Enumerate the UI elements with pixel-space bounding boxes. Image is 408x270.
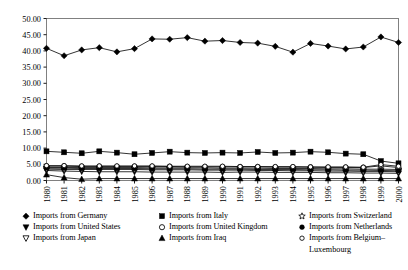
y-tick-label: 0.00 [26, 177, 41, 186]
line-chart: 0.005.0010.0015.0020.0025.0030.0035.0040… [0, 0, 408, 205]
legend-column-2: Imports from Italy Imports from United K… [156, 210, 298, 244]
x-tick-label: 1989 [201, 186, 210, 203]
legend-item-germany[interactable]: Imports from Germany [20, 210, 160, 221]
chart-page: 0.005.0010.0015.0020.0025.0030.0035.0040… [0, 0, 408, 270]
y-tick-label: 30.00 [22, 79, 41, 88]
legend-label: Imports from Netherlands [309, 221, 392, 232]
legend-item-belgium-luxembourg[interactable]: Imports from Belgium– [296, 232, 408, 243]
series-imports-from-germany [43, 34, 401, 59]
filled-down-triangle-icon [20, 221, 33, 232]
legend-item-netherlands[interactable]: Imports from Netherlands [296, 221, 408, 232]
legend-label: Imports from Switzerland [309, 210, 392, 221]
filled-up-triangle-icon [156, 232, 169, 243]
y-tick-label: 40.00 [22, 47, 41, 56]
legend-item-switzerland[interactable]: Imports from Switzerland [296, 210, 408, 221]
legend-item-italy[interactable]: Imports from Italy [156, 210, 298, 221]
legend-label: Imports from Italy [169, 210, 228, 221]
legend-item-united-states[interactable]: Imports from United States [20, 221, 160, 232]
legend-label: Imports from United Kingdom [169, 221, 268, 232]
legend-label: Imports from Iraq [169, 232, 226, 243]
filled-square-icon [156, 210, 169, 221]
x-tick-label: 2000 [395, 186, 404, 203]
y-tick-label: 10.00 [22, 144, 41, 153]
x-tick-label: 1981 [60, 186, 69, 203]
y-tick-label: 15.00 [22, 128, 41, 137]
x-tick-label: 1999 [377, 186, 386, 203]
legend-column-1: Imports from Germany Imports from United… [20, 210, 160, 244]
legend-column-3: Imports from Switzerland Imports from Ne… [296, 210, 408, 255]
open-down-triangle-icon [20, 232, 33, 243]
chart-legend: Imports from Germany Imports from United… [20, 210, 400, 266]
legend-label: Imports from Japan [33, 232, 96, 243]
y-tick-label: 45.00 [22, 31, 41, 40]
y-tick-label: 20.00 [22, 112, 41, 121]
legend-label: Imports from Germany [33, 210, 107, 221]
legend-item-iraq[interactable]: Imports from Iraq [156, 232, 298, 243]
x-tick-label: 1980 [43, 186, 52, 203]
x-tick-label: 1995 [307, 186, 316, 203]
x-tick-label: 1997 [342, 186, 351, 203]
x-tick-label: 1984 [113, 185, 122, 202]
x-tick-label: 1994 [289, 185, 298, 202]
y-tick-label: 5.00 [26, 160, 41, 169]
x-tick-label: 1985 [131, 186, 140, 203]
series-imports-from-italy [44, 149, 401, 166]
x-tick-label: 1983 [95, 186, 104, 203]
x-tick-label: 1988 [183, 186, 192, 203]
legend-label: Imports from United States [33, 221, 120, 232]
x-tick-label: 1996 [324, 186, 333, 203]
open-circle-icon [156, 221, 169, 232]
filled-diamond-icon [20, 210, 33, 221]
x-tick-label: 1991 [236, 186, 245, 203]
x-tick-label: 1982 [78, 186, 87, 203]
open-star-icon [296, 210, 309, 221]
x-tick-label: 1992 [254, 186, 263, 203]
y-tick-label: 25.00 [22, 96, 41, 105]
filled-circle-icon [296, 221, 309, 232]
legend-label-continuation: Luxembourg [296, 244, 408, 255]
open-circle-small-icon [296, 232, 309, 243]
legend-label: Imports from Belgium– [309, 232, 385, 243]
x-tick-label: 1987 [166, 186, 175, 203]
x-tick-label: 1998 [359, 186, 368, 203]
y-tick-label: 35.00 [22, 63, 41, 72]
x-tick-label: 1993 [271, 186, 280, 203]
x-tick-label: 1986 [148, 186, 157, 203]
plot-svg: 0.005.0010.0015.0020.0025.0030.0035.0040… [0, 0, 408, 205]
legend-item-japan[interactable]: Imports from Japan [20, 232, 160, 243]
legend-item-united-kingdom[interactable]: Imports from United Kingdom [156, 221, 298, 232]
y-tick-label: 50.00 [22, 15, 41, 24]
x-tick-label: 1990 [219, 186, 228, 203]
